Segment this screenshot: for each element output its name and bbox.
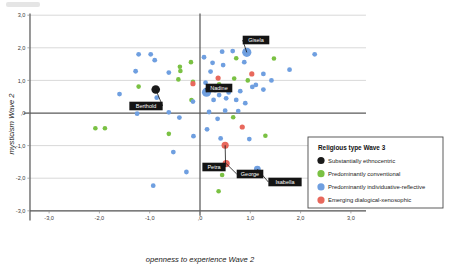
data-point	[166, 70, 171, 75]
data-point	[245, 78, 250, 83]
data-point	[216, 76, 221, 81]
data-point	[224, 96, 229, 101]
data-point	[191, 134, 196, 139]
data-point	[272, 56, 277, 61]
data-point	[166, 110, 171, 115]
legend: Religious type Wave 3Substantially ethno…	[308, 137, 443, 208]
data-point	[261, 87, 266, 92]
data-point	[202, 55, 207, 60]
x-tick-label: 1,0	[246, 215, 254, 221]
y-axis-title: mysticism Wave 2	[7, 93, 16, 155]
callout-label: Berthold	[136, 103, 157, 109]
data-point	[178, 64, 183, 69]
x-tick-label: -1,0	[145, 215, 155, 221]
data-point	[191, 99, 196, 104]
legend-swatch	[317, 157, 324, 164]
callout-label: Isabella	[276, 179, 296, 185]
data-point	[232, 76, 237, 81]
data-point	[221, 63, 226, 68]
callout-label: Petra	[207, 164, 221, 170]
data-point	[189, 60, 194, 65]
y-tick-label: 1,0	[18, 78, 26, 84]
callout-label: Gisela	[248, 37, 265, 43]
y-tick-label: -2,0	[16, 175, 26, 181]
data-point	[234, 98, 239, 103]
data-point	[249, 71, 254, 76]
x-tick-label: -3,0	[44, 215, 54, 221]
legend-swatch	[317, 170, 324, 177]
data-point	[184, 170, 189, 175]
data-point	[177, 115, 182, 120]
data-point	[236, 109, 241, 114]
data-point	[133, 69, 138, 74]
legend-item-label: Predominantly conventional	[328, 171, 400, 177]
y-tick-label: -1,0	[16, 143, 26, 149]
y-tick-label: 3,0	[18, 12, 26, 18]
data-point	[223, 108, 228, 113]
data-point	[269, 78, 274, 83]
data-point	[207, 110, 212, 115]
data-point	[171, 150, 176, 155]
data-point	[240, 124, 245, 129]
data-point	[263, 134, 268, 139]
y-tick-label: -3,0	[16, 208, 26, 214]
x-axis-title: openness to experience Wave 2	[146, 255, 255, 264]
legend-item-label: Predominantly individuative-reflective	[328, 184, 426, 190]
x-tick-label: 3,0	[347, 215, 355, 221]
data-point	[176, 77, 181, 82]
data-point	[167, 132, 172, 137]
y-tick-label: ,0	[21, 110, 26, 116]
data-point	[210, 60, 215, 65]
data-point	[152, 58, 157, 63]
data-point	[190, 81, 195, 86]
plot-canvas: -3,0-2,0-1,0,01,02,03,0 3,02,01,0,0-1,0-…	[0, 0, 449, 266]
x-tick-label: -2,0	[95, 215, 105, 221]
callout-label: Nadine	[210, 85, 227, 91]
y-tick-label: 2,0	[18, 45, 26, 51]
data-point	[238, 89, 243, 94]
data-point	[178, 69, 183, 74]
legend-title: Religious type Wave 3	[318, 144, 386, 152]
data-point	[217, 93, 222, 98]
data-point	[93, 126, 98, 131]
figure-background	[0, 0, 449, 266]
data-point	[117, 92, 122, 97]
data-point	[208, 69, 213, 74]
callout-nadine: Nadine	[206, 84, 233, 93]
legend-item-label: Emerging dialogical-xenosophic	[328, 197, 411, 203]
data-point	[247, 137, 252, 142]
data-point	[135, 111, 140, 116]
data-point	[136, 84, 141, 89]
x-tick-label: 2,0	[297, 215, 305, 221]
data-point	[287, 67, 292, 72]
legend-swatch	[317, 197, 324, 204]
x-tick-label: ,0	[198, 215, 203, 221]
legend-item-label: Substantially ethnocentric	[328, 158, 395, 164]
data-point	[215, 116, 220, 121]
data-point	[253, 83, 258, 88]
data-point	[103, 126, 108, 131]
callout-label: George	[241, 171, 259, 177]
data-point	[220, 173, 225, 178]
data-point	[151, 183, 156, 188]
data-point	[234, 56, 239, 61]
data-point	[261, 71, 266, 76]
data-point	[205, 127, 210, 132]
data-point	[242, 60, 247, 65]
scatter-plot-figure: -3,0-2,0-1,0,01,02,03,0 3,02,01,0,0-1,0-…	[0, 0, 449, 266]
data-point	[230, 49, 235, 54]
data-point	[243, 101, 248, 106]
scan-artifact	[6, 2, 40, 7]
data-point	[231, 115, 236, 120]
data-point	[216, 189, 221, 194]
data-point	[211, 98, 216, 103]
legend-swatch	[317, 183, 324, 190]
data-point	[136, 52, 141, 57]
data-point	[220, 49, 225, 54]
data-point	[312, 52, 317, 57]
data-point	[148, 52, 153, 57]
data-point	[218, 136, 223, 141]
